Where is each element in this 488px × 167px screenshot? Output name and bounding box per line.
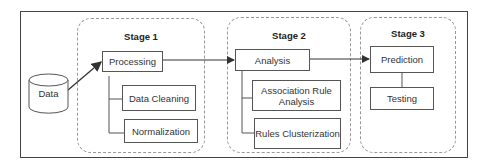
data-source-label: Data — [29, 88, 68, 99]
analysis-box: Analysis — [235, 49, 310, 71]
data-cleaning-box: Data Cleaning — [122, 85, 196, 111]
prediction-box: Prediction — [370, 46, 434, 73]
processing-box: Processing — [102, 51, 163, 72]
rules-clusterization-box: Rules Clusterization — [254, 118, 341, 149]
connector-lines — [0, 0, 488, 167]
association-rule-analysis-box: Association Rule Analysis — [252, 80, 341, 111]
normalization-box: Normalization — [124, 119, 198, 143]
testing-box: Testing — [370, 87, 434, 110]
